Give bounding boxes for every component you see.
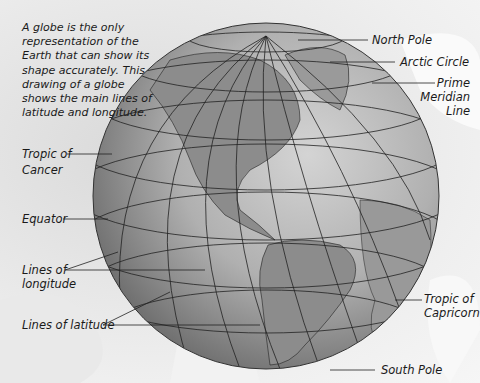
label-north-pole: North Pole (372, 33, 432, 47)
label-equator: Equator (22, 212, 67, 226)
label-prime-meridian: Prime Meridian Line (420, 76, 470, 118)
label-tropic-of-cancer: Tropic of Cancer (22, 147, 71, 177)
label-south-pole: South Pole (381, 363, 442, 377)
label-tropic-of-capricorn: Tropic of Capricorn (424, 292, 480, 320)
intro-caption: A globe is the only representation of th… (22, 21, 162, 120)
label-lines-of-longitude: Lines of longitude (22, 263, 76, 291)
label-arctic-circle: Arctic Circle (400, 55, 469, 69)
label-lines-of-latitude: Lines of latitude (22, 318, 114, 332)
